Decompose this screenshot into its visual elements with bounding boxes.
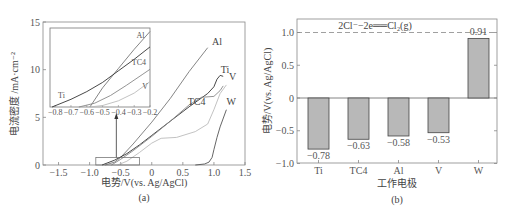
inset-label-tc4: TC4 [132,58,146,67]
x-tick-label-a: 1.5 [239,167,252,178]
x-tick-label-a: 1.0 [208,167,221,178]
figure: −1.5−1.0−0.500.51.01.5 051015 AlTiVTC4W … [0,0,511,215]
x-tick-label-b: Al [394,165,404,176]
y-tick-label-b: −0.5 [276,125,294,136]
y-tick-label-a: 5 [35,112,40,123]
inset-x-tick-label: −0.5 [95,108,110,117]
x-tick-label-a: −1.0 [81,167,99,178]
y-tick-label-a: 15 [30,17,40,28]
y-axis-label-b: 电势/V(vs. Ag/AgCl) [261,48,274,135]
y-axis-label-a: 电流密度 /mA·cm⁻² [8,52,20,136]
inset-label-al: Al [137,31,146,40]
panel-label-a: (a) [138,192,149,204]
bar-value-label: −0.58 [387,137,410,148]
y-tick-label-b: 0 [289,93,294,104]
curve-w [195,110,226,165]
bar-value-label: −0.63 [347,140,370,151]
inset-label-ti: Ti [58,91,66,100]
y-tick-label-a: 0 [35,160,40,171]
series-label-v: V [229,71,237,82]
bar-al [388,98,409,136]
y-tick-label-b: −1.0 [276,158,294,169]
x-axis-label-a: 电势/V(vs. Ag/AgCl) [101,176,188,189]
x-tick-label-b: TC4 [350,165,368,176]
inset-x-tick-label: −0.8 [48,108,63,117]
bar-value-label: 0.91 [470,26,488,37]
bar-ti [308,98,329,149]
x-tick-label-b: Ti [314,165,323,176]
series-label-tc4: TC4 [188,96,206,107]
bar-value-label: −0.53 [427,134,450,145]
inset-label-v: V [142,82,148,91]
y-tick-label-a: 10 [30,64,40,75]
inset-frame [50,28,150,107]
inset-x-tick-label: −0.2 [143,108,158,117]
bar-v [428,98,449,133]
y-tick-label-b: 0.5 [282,60,295,71]
inset-x-tick-label: −0.6 [80,108,95,117]
x-tick-label-b: W [474,165,484,176]
panel-b-chart: 2Cl⁻−2e══Cl₂(g) −1.0−0.500.51.0 −0.78Ti−… [261,19,497,206]
x-tick-label-a: −1.5 [49,167,67,178]
panel-label-b: (b) [391,194,403,206]
series-label-w: W [227,96,237,107]
x-tick-label-b: V [435,165,443,176]
inset-x-tick-label: −0.7 [64,108,79,117]
y-tick-label-b: 1.0 [282,27,295,38]
reference-label: 2Cl⁻−2e══Cl₂(g) [338,20,412,32]
inset-x-tick-label: −0.4 [111,108,126,117]
x-axis-label-b: 工作电极 [377,177,417,189]
series-label-al: Al [212,36,222,47]
bar-tc4 [348,98,369,139]
bar-value-label: −0.78 [307,150,330,161]
panel-a-chart: −1.5−1.0−0.500.51.01.5 051015 AlTiVTC4W … [8,17,251,205]
bar-w [468,38,489,98]
inset-x-tick-label: −0.3 [127,108,142,117]
